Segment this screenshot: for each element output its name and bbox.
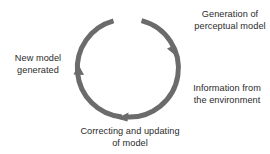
diagram-canvas: Generation of perceptual model Informati… xyxy=(0,0,270,154)
label-generation-of-perceptual-model: Generation of perceptual model xyxy=(190,9,270,32)
label-correcting-and-updating-of-model: Correcting and updating of model xyxy=(60,126,200,149)
label-new-model-generated: New model generated xyxy=(2,53,74,76)
arc-left-segment xyxy=(77,21,122,117)
arrowhead-right-icon xyxy=(167,45,177,57)
arc-right-segment xyxy=(127,21,179,117)
label-information-from-the-environment: Information from the environment xyxy=(184,83,270,106)
